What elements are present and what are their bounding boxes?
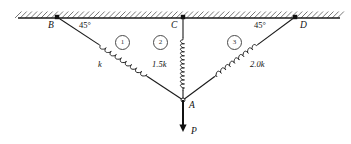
hatch-stroke xyxy=(135,12,142,19)
hatch-stroke xyxy=(161,12,168,19)
hatch-stroke xyxy=(332,12,339,19)
hatch-stroke xyxy=(265,12,272,19)
node-label-C: C xyxy=(171,21,177,31)
hatch-stroke xyxy=(119,12,126,19)
hatch-stroke xyxy=(93,12,100,19)
stiffness-label-3: 2.0k xyxy=(250,60,264,69)
hatch-stroke xyxy=(171,12,178,19)
hatch-stroke xyxy=(213,12,220,19)
hatch-stroke xyxy=(270,12,277,19)
hatch-stroke xyxy=(228,12,235,19)
hatch-stroke xyxy=(62,12,69,19)
member-segment-1 xyxy=(148,77,183,100)
hatch-stroke xyxy=(239,12,246,19)
hatch-stroke xyxy=(83,12,90,19)
hatch-stroke xyxy=(192,12,199,19)
hatch-stroke xyxy=(109,12,116,19)
hatch-stroke xyxy=(103,12,110,19)
node-label-A: A xyxy=(189,101,195,111)
hatch-stroke xyxy=(223,12,230,19)
hatch-stroke xyxy=(88,12,95,19)
hatch-stroke xyxy=(124,12,131,19)
hatch-stroke xyxy=(337,12,344,19)
hatch-stroke xyxy=(155,12,162,19)
hatch-stroke xyxy=(129,12,136,19)
hatch-stroke xyxy=(233,12,240,19)
hatch-stroke xyxy=(25,12,32,19)
hatch-stroke xyxy=(98,12,105,19)
hatch-stroke xyxy=(114,12,121,19)
hatch-stroke xyxy=(259,12,266,19)
hatch-stroke xyxy=(36,12,43,19)
hatch-stroke xyxy=(285,12,292,19)
member-segment-3 xyxy=(183,77,214,100)
hatch-stroke xyxy=(275,12,282,19)
hatch-stroke xyxy=(72,12,79,19)
hatch-stroke xyxy=(327,12,334,19)
hatch-stroke xyxy=(77,12,84,19)
hatch-stroke xyxy=(197,12,204,19)
node-label-D: D xyxy=(300,21,307,31)
hatch-stroke xyxy=(322,12,329,19)
hatch-stroke xyxy=(140,12,147,19)
member-number-3: 3 xyxy=(227,35,242,50)
member-number-1: 1 xyxy=(115,35,130,50)
spring-2 xyxy=(180,38,184,90)
hatch-stroke xyxy=(218,12,225,19)
hatch-stroke xyxy=(254,12,261,19)
hatch-stroke xyxy=(207,12,214,19)
hatch-stroke xyxy=(317,12,324,19)
hatch-stroke xyxy=(311,12,318,19)
hatch-stroke xyxy=(202,12,209,19)
hatch-stroke xyxy=(31,12,37,19)
node-marker-D xyxy=(293,15,297,19)
angle-label-right: 45° xyxy=(254,21,266,30)
load-arrow-head xyxy=(179,125,186,133)
hatch-stroke xyxy=(306,12,313,19)
hatch-stroke xyxy=(15,12,22,19)
stiffness-label-1: k xyxy=(98,60,102,69)
hatch-stroke xyxy=(67,12,74,19)
node-marker-C xyxy=(181,15,185,19)
member-number-2: 2 xyxy=(153,35,168,50)
stiffness-label-2: 1.5k xyxy=(152,60,166,69)
hatch-stroke xyxy=(41,12,48,19)
load-label-P: P xyxy=(191,127,197,137)
hatch-stroke xyxy=(150,12,157,19)
hatch-stroke xyxy=(20,12,27,19)
hatch-stroke xyxy=(166,12,173,19)
angle-label-left: 45° xyxy=(79,21,91,30)
hatch-stroke xyxy=(244,12,251,19)
node-marker-B xyxy=(55,15,59,19)
hatch-stroke xyxy=(301,12,308,19)
member-segment-1 xyxy=(57,17,99,44)
hatch-stroke xyxy=(280,12,287,19)
hatch-stroke xyxy=(145,12,152,19)
node-label-B: B xyxy=(48,21,54,31)
hatch-stroke xyxy=(46,12,53,19)
hatch-stroke xyxy=(249,12,256,19)
figure-canvas: B C D A 45° 45° 1 2 3 k 1.5k 2.0k P xyxy=(0,0,351,144)
load-arrow xyxy=(179,100,186,132)
hatch-stroke xyxy=(187,12,194,19)
